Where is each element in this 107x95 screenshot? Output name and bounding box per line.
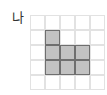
grid-cell <box>90 15 105 30</box>
shaded-cell <box>75 45 90 60</box>
shaded-cell <box>75 60 90 75</box>
grid-cell <box>75 30 90 45</box>
grid-cell <box>30 30 45 45</box>
grid-cell <box>30 45 45 60</box>
shaded-cell <box>45 45 60 60</box>
grid-cell <box>60 75 75 90</box>
grid-cell <box>45 15 60 30</box>
grid-cell <box>90 60 105 75</box>
shaded-cell <box>60 60 75 75</box>
grid-cell <box>30 60 45 75</box>
grid-cell <box>45 75 60 90</box>
grid-cell <box>90 45 105 60</box>
grid-cell <box>30 15 45 30</box>
grid-cell <box>90 30 105 45</box>
shaded-cell <box>60 45 75 60</box>
grid-cell <box>60 30 75 45</box>
shaded-cell <box>45 30 60 45</box>
shaded-cell <box>45 60 60 75</box>
grid-cell <box>90 75 105 90</box>
grid-cell <box>60 15 75 30</box>
grid-cell <box>75 15 90 30</box>
figure-label: 나 <box>12 11 24 25</box>
grid-cell <box>30 75 45 90</box>
square-grid <box>30 15 105 90</box>
grid-cell <box>75 75 90 90</box>
